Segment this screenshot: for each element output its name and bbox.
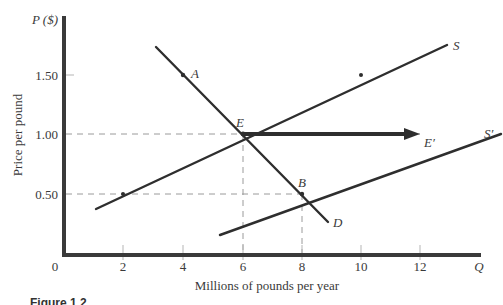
label-s: S	[453, 38, 460, 53]
label-e-prime: E′	[423, 135, 435, 150]
y-tick-100: 1.00	[35, 127, 58, 142]
point-s-10	[359, 73, 363, 77]
supply-demand-chart: P ($) 1.50 1.00 0.50 Price per pound 0 2…	[0, 0, 503, 305]
label-e: E	[235, 115, 244, 130]
origin-label: 0	[52, 259, 59, 274]
x-tick-6: 6	[240, 259, 247, 274]
figure-caption: Figure 1.2	[30, 296, 87, 305]
label-b: B	[298, 175, 306, 190]
y-tick-150: 1.50	[35, 68, 58, 83]
label-d: D	[332, 215, 343, 230]
label-s-prime: S′	[484, 126, 494, 141]
y-tick-050: 0.50	[35, 187, 58, 202]
label-a: A	[190, 66, 199, 81]
x-tick-12: 12	[414, 259, 427, 274]
x-axis-symbol: Q	[474, 259, 484, 274]
x-tick-10: 10	[355, 259, 368, 274]
supply-curve-s-prime	[220, 134, 501, 235]
y-axis-symbol: P ($)	[31, 12, 58, 27]
supply-curve-s	[96, 45, 447, 209]
shift-arrow-head-icon	[404, 128, 420, 140]
point-s-2	[121, 192, 125, 196]
x-axis-title: Millions of pounds per year	[195, 278, 340, 293]
point-b-marker	[300, 192, 304, 196]
x-tick-4: 4	[180, 259, 187, 274]
x-tick-8: 8	[299, 259, 306, 274]
point-a-marker	[181, 73, 185, 77]
dashed-guides	[66, 134, 420, 253]
x-tick-2: 2	[120, 259, 127, 274]
y-axis-title: Price per pound	[10, 93, 25, 176]
